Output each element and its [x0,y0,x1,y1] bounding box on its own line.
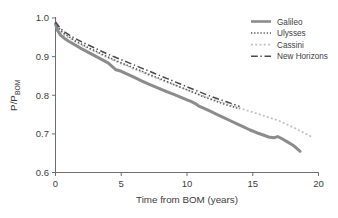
legend-label-cassini: Cassini [277,41,304,50]
x-axis-title: Time from BOM (years) [136,194,238,205]
chart-figure: 0.60.70.80.91.005101520 Time from BOM (y… [0,0,338,218]
x-tick-label: 15 [247,178,258,189]
y-tick-label: 0.9 [36,51,49,62]
series-line-cassini [56,25,312,137]
series-line-galileo [56,24,301,151]
chart-canvas: 0.60.70.80.91.005101520 Time from BOM (y… [0,0,338,218]
legend-label-galileo: Galileo [277,18,303,27]
legend-label-ulysses: Ulysses [277,29,306,38]
y-axis-title: P/PBOM [8,79,21,111]
y-tick-label: 1.0 [36,12,49,23]
chart-legend: GalileoUlyssesCassiniNew Horizons [251,18,328,62]
data-series-group [56,22,312,151]
x-tick-label: 20 [313,178,324,189]
y-axis-title-text: P/PBOM [8,79,21,111]
y-tick-label: 0.6 [36,167,49,178]
y-tick-label: 0.8 [36,90,49,101]
x-tick-label: 0 [53,178,58,189]
series-line-ulysses [56,23,240,109]
x-tick-label: 5 [119,178,124,189]
tick-labels: 0.60.70.80.91.005101520 [36,12,324,188]
y-tick-label: 0.7 [36,128,49,139]
series-line-new-horizons [56,22,240,107]
x-tick-label: 10 [182,178,193,189]
y-axis-title-subscript: BOM [14,79,21,95]
legend-label-new-horizons: New Horizons [277,52,328,61]
